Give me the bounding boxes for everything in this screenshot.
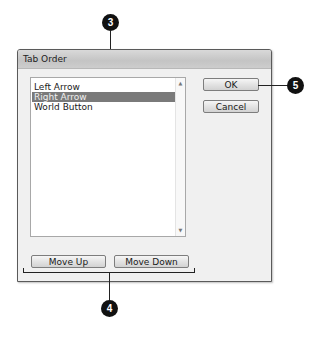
move-down-button[interactable]: Move Down [114, 255, 189, 268]
tab-order-list[interactable]: Left Arrow Right Arrow World Button ▲ ▼ [30, 77, 186, 237]
tab-order-dialog: Tab Order Left Arrow Right Arrow World B… [17, 49, 272, 282]
callout-4-leader [109, 272, 110, 301]
scroll-up-icon[interactable]: ▲ [177, 80, 184, 87]
cancel-button[interactable]: Cancel [203, 100, 259, 113]
list-item-world-button[interactable]: World Button [32, 102, 177, 112]
callout-4-bracket-left-tick [23, 268, 24, 273]
ok-button[interactable]: OK [203, 78, 259, 91]
callout-4-bracket-right-tick [194, 268, 195, 273]
scroll-down-icon[interactable]: ▼ [177, 227, 184, 234]
dialog-title: Tab Order [23, 54, 67, 64]
move-up-button[interactable]: Move Up [31, 255, 106, 268]
list-item-left-arrow[interactable]: Left Arrow [32, 82, 177, 92]
callout-3: 3 [102, 14, 119, 31]
callout-5-leader [258, 85, 288, 86]
callout-4: 4 [101, 300, 118, 317]
list-scrollbar[interactable]: ▲ ▼ [175, 78, 185, 236]
list-item-right-arrow[interactable]: Right Arrow [32, 92, 177, 102]
callout-5: 5 [287, 77, 304, 94]
title-bar[interactable]: Tab Order [18, 50, 271, 69]
